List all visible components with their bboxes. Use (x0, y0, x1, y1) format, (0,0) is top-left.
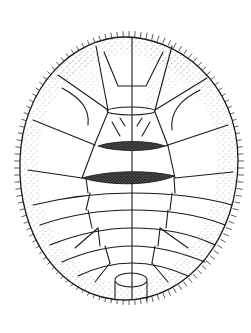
organism-drawing (0, 0, 251, 333)
organism-illustration (0, 0, 251, 333)
